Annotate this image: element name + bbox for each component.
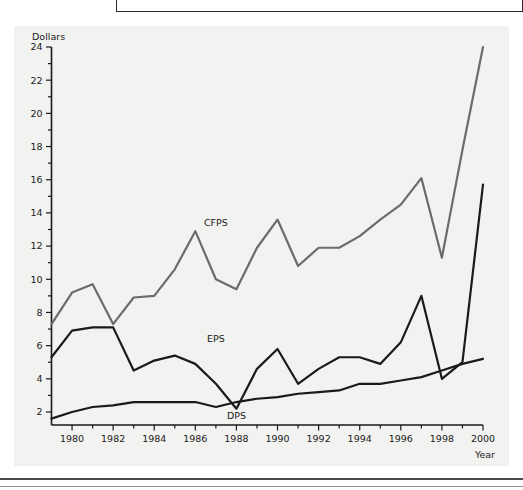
y-tick-label: 18: [30, 141, 42, 152]
x-tick-label: 1982: [101, 433, 125, 444]
y-tick-label: 8: [36, 307, 42, 318]
y-axis-title: Dollars: [32, 31, 65, 42]
chart-page: 2468101214161820222419801982198419861988…: [0, 0, 523, 490]
y-tick-label: 20: [30, 108, 42, 119]
x-tick-label: 1996: [389, 433, 413, 444]
y-tick-label: 10: [30, 274, 42, 285]
series-line-cfps: [52, 47, 484, 324]
y-tick-label: 24: [30, 41, 42, 52]
x-tick-label: 1984: [142, 433, 166, 444]
x-tick-label: 1980: [60, 433, 84, 444]
x-tick-label: 1988: [224, 433, 248, 444]
y-tick-label: 14: [30, 207, 42, 218]
series-line-eps: [52, 185, 484, 409]
labels-group: DollarsYearCFPSEPSDPS: [32, 31, 495, 460]
y-tick-label: 6: [36, 340, 42, 351]
x-tick-label: 1998: [430, 433, 454, 444]
series-label-cfps: CFPS: [204, 217, 228, 228]
x-tick-label: 1986: [183, 433, 207, 444]
bottom-divider-secondary: [0, 486, 523, 487]
y-tick-label: 2: [36, 406, 42, 417]
y-tick-label: 16: [30, 174, 42, 185]
series-label-dps: DPS: [227, 410, 246, 421]
series-line-dps: [52, 359, 484, 419]
series-label-eps: EPS: [207, 333, 225, 344]
y-tick-label: 22: [30, 75, 42, 86]
axes-group: 2468101214161820222419801982198419861988…: [30, 41, 495, 443]
line-chart: 2468101214161820222419801982198419861988…: [0, 0, 523, 490]
x-axis-title: Year: [474, 449, 495, 460]
x-tick-label: 2000: [471, 433, 495, 444]
x-tick-label: 1990: [265, 433, 289, 444]
x-tick-label: 1992: [307, 433, 331, 444]
series-group: [52, 47, 484, 419]
x-tick-label: 1994: [348, 433, 372, 444]
y-tick-label: 12: [30, 240, 42, 251]
y-tick-label: 4: [36, 373, 42, 384]
bottom-divider: [0, 478, 523, 480]
